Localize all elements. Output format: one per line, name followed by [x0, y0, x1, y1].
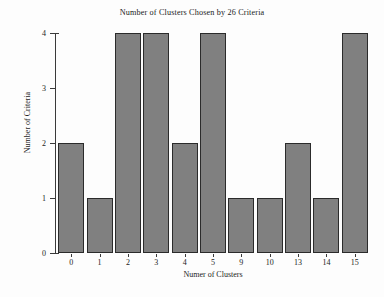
bar [285, 143, 311, 253]
chart-screenshot: Number of Clusters Chosen by 26 Criteria… [0, 0, 384, 297]
bar [257, 198, 283, 253]
x-axis-tick-label: 5 [198, 258, 228, 267]
x-axis-tick [185, 254, 186, 257]
x-axis-tick [298, 254, 299, 257]
x-axis-tick-label: 13 [283, 258, 313, 267]
bar [342, 33, 368, 253]
x-axis-tick [213, 254, 214, 257]
x-axis-tick-label: 4 [170, 258, 200, 267]
x-axis-tick [71, 254, 72, 257]
plot-area [57, 33, 369, 253]
chart-title: Number of Clusters Chosen by 26 Criteria [0, 8, 384, 17]
x-axis-tick-label: 3 [141, 258, 171, 267]
bar [172, 143, 198, 253]
x-axis-title: Numer of Clusters [57, 270, 369, 279]
bar [87, 198, 113, 253]
x-axis-tick-label: 14 [311, 258, 341, 267]
y-axis-tick-label: 4 [6, 33, 46, 34]
x-axis-tick [355, 254, 356, 257]
x-axis-tick-label: 15 [340, 258, 370, 267]
y-axis-tick [50, 253, 55, 254]
x-axis-tick-label: 1 [85, 258, 115, 267]
y-axis-tick [50, 198, 55, 199]
y-axis-title: Number of Criteria [23, 68, 32, 178]
y-axis-tick-label: 0 [6, 253, 46, 254]
bar [228, 198, 254, 253]
y-axis-tick-label: 1 [6, 198, 46, 199]
x-axis-tick-label: 0 [56, 258, 86, 267]
x-axis-tick [156, 254, 157, 257]
y-axis-tick [50, 143, 55, 144]
bar [115, 33, 141, 253]
y-axis-line [55, 33, 56, 254]
x-axis-tick [100, 254, 101, 257]
bar [143, 33, 169, 253]
bar [313, 198, 339, 253]
bar [200, 33, 226, 253]
x-axis-tick [128, 254, 129, 257]
x-axis-tick [241, 254, 242, 257]
x-axis-tick-label: 2 [113, 258, 143, 267]
x-axis-tick-label: 10 [255, 258, 285, 267]
y-axis-tick [50, 33, 55, 34]
x-axis-tick [270, 254, 271, 257]
y-axis-bottom-cap [55, 253, 59, 254]
bar [58, 143, 84, 253]
x-axis-tick-label: 9 [226, 258, 256, 267]
x-axis-tick [326, 254, 327, 257]
y-axis-tick [50, 88, 55, 89]
